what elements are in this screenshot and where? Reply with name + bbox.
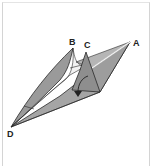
label-d: D [7, 129, 14, 139]
origami-diagram: A B C D [0, 0, 157, 166]
label-c: C [84, 40, 91, 50]
label-a: A [133, 38, 140, 48]
label-b: B [69, 37, 76, 47]
